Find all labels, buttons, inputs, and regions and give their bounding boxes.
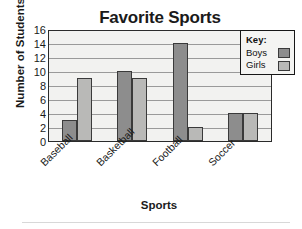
bar-chart-figure: Favorite Sports Number of Students 02468… (0, 0, 302, 229)
y-tick-label: 0 (22, 137, 46, 148)
x-axis-tick-labels: BaseballBasketballFootballSoccer (48, 142, 272, 198)
legend-entry-girls: Girls (246, 60, 290, 70)
x-tick-slot: Basketball (104, 142, 160, 198)
y-tick-label: 4 (22, 109, 46, 120)
bottom-divider (22, 222, 290, 223)
legend-entry-label: Boys (246, 48, 267, 58)
legend-swatch-girls (278, 61, 290, 71)
x-tick-slot: Soccer (216, 142, 272, 198)
y-tick-label: 8 (22, 81, 46, 92)
chart-title: Favorite Sports (60, 8, 260, 28)
y-axis-tick-labels: 0246810121416 (22, 30, 46, 142)
x-tick-slot: Football (160, 142, 216, 198)
legend-entry-boys: Boys (246, 48, 290, 58)
y-tick-label: 12 (22, 53, 46, 64)
y-tick-label: 6 (22, 95, 46, 106)
y-tick-label: 14 (22, 39, 46, 50)
legend-entries: BoysGirls (246, 48, 290, 71)
x-tick-slot: Baseball (48, 142, 104, 198)
legend-swatch-boys (278, 48, 290, 58)
y-tick-label: 16 (22, 25, 46, 36)
legend-title: Key: (246, 34, 290, 46)
legend-entry-label: Girls (246, 60, 266, 70)
y-tick-label: 10 (22, 67, 46, 78)
x-axis-label: Sports (45, 199, 273, 211)
y-tick-label: 2 (22, 123, 46, 134)
legend: Key: BoysGirls (240, 30, 295, 75)
